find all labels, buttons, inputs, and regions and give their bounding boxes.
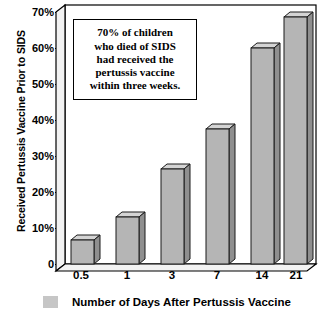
annotation-callout: 70% of children who died of SIDS had rec…: [73, 19, 197, 100]
annotation-line-5: within three weeks.: [90, 79, 181, 92]
x-tick-label-0: 0.5: [58, 270, 104, 282]
x-tick-label-1: 1: [104, 270, 150, 282]
bar-14: [251, 43, 280, 264]
bar-1: [116, 212, 145, 264]
legend: Number of Days After Pertussis Vaccine: [43, 296, 291, 308]
bar-0.5: [71, 235, 100, 264]
bar-chart: Received Pertussis Vaccine Prior to SIDS…: [0, 0, 319, 318]
bar-7: [206, 124, 235, 264]
x-tick-label-3: 7: [194, 270, 240, 282]
legend-label: Number of Days After Pertussis Vaccine: [72, 296, 291, 308]
x-tick-label-5: 21: [273, 270, 319, 282]
annotation-line-3: had received the: [97, 53, 174, 66]
annotation-line-2: who died of SIDS: [94, 40, 176, 53]
bar-21: [284, 12, 313, 264]
bar-3: [161, 164, 190, 264]
annotation-line-1: 70% of children: [97, 26, 173, 39]
annotation-line-4: pertussis vaccine: [95, 66, 174, 79]
x-tick-label-2: 3: [149, 270, 195, 282]
legend-swatch: [43, 296, 58, 308]
